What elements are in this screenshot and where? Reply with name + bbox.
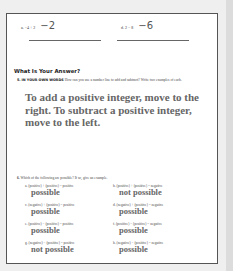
item-result: not possible — [119, 188, 203, 197]
number-line-ticks — [119, 38, 187, 42]
item-result: possible — [119, 226, 203, 235]
item-label: f. — [113, 222, 115, 226]
q6-item-e: e. (positive) − (positive) = positive po… — [25, 222, 115, 235]
question-6: 6. Which of the following are possible? … — [17, 176, 107, 180]
exercise-d: d. 2 − 8 −6 — [121, 20, 153, 31]
exercise-answer: −2 — [40, 20, 55, 31]
number-line-a — [29, 38, 101, 42]
question-5: 5. IN YOUR OWN WORDS How can you use a n… — [17, 78, 197, 83]
item-label: d. — [113, 203, 116, 207]
item-result: possible — [31, 226, 115, 235]
exercise-answer: −6 — [138, 20, 153, 31]
q6-item-b: b. (positive) + (positive) = negative no… — [113, 184, 203, 197]
question-text: Which of the following are possible? If … — [21, 176, 108, 180]
item-label: g. — [25, 241, 28, 245]
worksheet-page: a. −4 + 2 −2 d. 2 − 8 −6 What Is Your An… — [6, 13, 218, 264]
exercise-label: d. — [121, 25, 124, 30]
item-label: h. — [113, 241, 116, 245]
exercise-label: a. — [21, 25, 24, 30]
question-5-answer: To add a positive integer, move to the r… — [25, 91, 205, 129]
page-edge — [226, 0, 233, 271]
number-line-d — [117, 38, 189, 42]
question-lead: IN YOUR OWN WORDS — [22, 78, 64, 82]
q6-item-f: f. (positive) − (positive) = negative po… — [113, 222, 203, 235]
item-label: b. — [113, 184, 116, 188]
exercise-expression: 2 − 8 — [125, 25, 133, 30]
item-result: possible — [119, 207, 203, 216]
q6-item-c: c. (negative) + (positive) = positive po… — [25, 203, 115, 216]
item-result: possible — [119, 245, 203, 254]
question-number: 5. — [17, 78, 21, 82]
exercise-a: a. −4 + 2 −2 — [21, 20, 55, 31]
item-result: not possible — [31, 245, 115, 254]
question-text: How can you use a number line to add and… — [65, 78, 182, 82]
item-result: possible — [31, 188, 115, 197]
q6-item-h: h. (negative) − (positive) = negative po… — [113, 241, 203, 254]
question-number: 6. — [17, 176, 20, 180]
item-result: possible — [31, 207, 115, 216]
q6-item-d: d. (negative) + (positive) = negative po… — [113, 203, 203, 216]
q6-item-a: a. (positive) + (positive) = positive po… — [25, 184, 115, 197]
q6-item-g: g. (negative) − (positive) = positive no… — [25, 241, 115, 254]
exercise-expression: −4 + 2 — [25, 25, 36, 30]
number-line-ticks — [31, 38, 99, 42]
section-heading: What Is Your Answer? — [14, 68, 80, 74]
